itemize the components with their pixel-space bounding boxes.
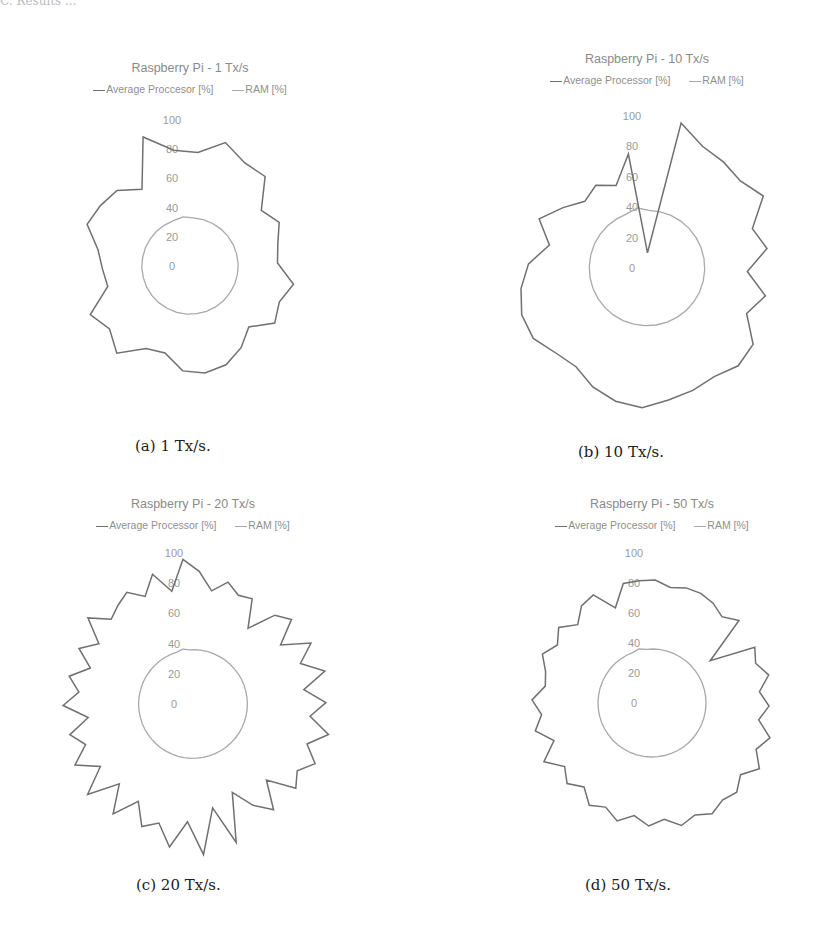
- caption-d: (d) 50 Tx/s.: [585, 876, 671, 894]
- radial-tick-label: 40: [168, 638, 180, 650]
- ram-series-line: [139, 649, 248, 758]
- radial-tick-label: 0: [629, 262, 635, 274]
- ram-series-line: [598, 649, 706, 757]
- ram-series-line: [589, 208, 704, 326]
- radial-tick-label: 60: [166, 172, 178, 184]
- figure-panel-c: Raspberry Pi - 20 Tx/s Average Processor…: [23, 473, 363, 863]
- radial-tick-label: 80: [626, 140, 638, 152]
- radial-tick-label: 0: [169, 260, 175, 272]
- radial-tick-label: 0: [171, 698, 177, 710]
- radial-tick-label: 60: [168, 607, 180, 619]
- radar-chart: 020406080100: [20, 40, 360, 430]
- radial-tick-label: 20: [166, 231, 178, 243]
- ram-series-line: [142, 217, 238, 314]
- radial-tick-label: 100: [165, 547, 183, 559]
- processor-series-line: [532, 580, 770, 826]
- processor-series-line: [521, 123, 767, 408]
- radial-tick-label: 40: [628, 637, 640, 649]
- radar-chart: 020406080100: [477, 30, 817, 420]
- page-header-fragment: C. Results ...: [0, 0, 600, 6]
- figure-panel-d: Raspberry Pi - 50 Tx/s Average Processor…: [482, 473, 822, 863]
- radial-tick-label: 0: [631, 697, 637, 709]
- radial-tick-label: 100: [625, 547, 643, 559]
- radial-tick-label: 100: [623, 110, 641, 122]
- radial-tick-label: 20: [168, 668, 180, 680]
- radar-chart: 020406080100: [482, 473, 822, 863]
- radial-tick-label: 100: [163, 114, 181, 126]
- processor-series-line: [87, 137, 293, 373]
- radar-chart: 020406080100: [23, 473, 363, 863]
- figure-panel-b: Raspberry Pi - 10 Tx/s Average Processor…: [477, 30, 817, 420]
- radial-tick-label: 40: [166, 202, 178, 214]
- radial-tick-label: 20: [626, 232, 638, 244]
- radial-tick-label: 20: [628, 667, 640, 679]
- radial-tick-label: 60: [628, 607, 640, 619]
- caption-c: (c) 20 Tx/s.: [136, 876, 221, 894]
- caption-b: (b) 10 Tx/s.: [578, 443, 664, 461]
- figure-panel-a: Raspberry Pi - 1 Tx/s Average Proccesor …: [20, 40, 360, 430]
- processor-series-line: [63, 559, 328, 854]
- caption-a: (a) 1 Tx/s.: [135, 437, 211, 455]
